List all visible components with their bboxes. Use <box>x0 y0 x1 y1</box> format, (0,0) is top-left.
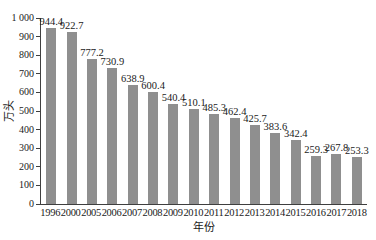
bar-slot: 462.4 <box>224 18 244 204</box>
y-tick-label: 200 <box>19 162 34 172</box>
x-tick-label: 2013 <box>244 207 264 218</box>
bar-slot: 638.9 <box>123 18 143 204</box>
bar-value-label: 600.4 <box>141 81 165 91</box>
x-tick-label: 2017 <box>326 207 346 218</box>
bar-value-label: 253.3 <box>345 146 369 156</box>
bar-slot: 922.7 <box>61 18 81 204</box>
bar-2012 <box>230 118 240 204</box>
y-tick-label: 600 <box>19 87 34 97</box>
bar-2014 <box>270 133 280 204</box>
bar-slot: 485.3 <box>204 18 224 204</box>
y-tick-mark <box>36 129 40 130</box>
bar-1996 <box>46 28 56 204</box>
bar-slot: 425.7 <box>245 18 265 204</box>
y-tick-label: 1 000 <box>12 13 35 23</box>
x-tick-label: 2010 <box>183 207 203 218</box>
x-tick-label: 2005 <box>81 207 101 218</box>
bar-slot: 259.3 <box>306 18 326 204</box>
bar-slot: 730.9 <box>102 18 122 204</box>
y-tick-label: 0 <box>29 199 34 209</box>
bar-value-label: 922.7 <box>60 21 84 31</box>
x-tick-label: 2000 <box>60 207 80 218</box>
y-tick-mark <box>36 73 40 74</box>
y-tick-label: 700 <box>19 69 34 79</box>
bar-2011 <box>209 114 219 204</box>
y-tick-mark <box>36 185 40 186</box>
bar-slot: 267.8 <box>326 18 346 204</box>
bar-value-label: 730.9 <box>101 57 125 67</box>
bar-2010 <box>189 109 199 204</box>
x-tick-label: 2016 <box>306 207 326 218</box>
bar-slot: 342.4 <box>286 18 306 204</box>
x-tick-label: 2006 <box>101 207 121 218</box>
x-tick-label: 2009 <box>163 207 183 218</box>
bar-2006 <box>107 68 117 204</box>
x-tick-label: 2015 <box>285 207 305 218</box>
x-tick-label: 2008 <box>142 207 162 218</box>
x-axis-title: 年份 <box>40 221 367 234</box>
bar-2016 <box>311 156 321 204</box>
x-tick-label: 2011 <box>204 207 224 218</box>
x-tick-label: 2007 <box>122 207 142 218</box>
bar-slot: 253.3 <box>347 18 367 204</box>
y-tick-label: 900 <box>19 32 34 42</box>
bar-2007 <box>128 85 138 204</box>
y-tick-label: 800 <box>19 50 34 60</box>
bar-slot: 383.6 <box>265 18 285 204</box>
bar-slot: 540.4 <box>163 18 183 204</box>
x-tick-label: 1996 <box>40 207 60 218</box>
bar-value-label: 342.4 <box>284 129 308 139</box>
x-axis-labels: 1996200020052006200720082009201020112012… <box>40 207 367 218</box>
bar-2017 <box>331 154 341 204</box>
bar-2009 <box>168 104 178 205</box>
x-tick-label: 2014 <box>265 207 285 218</box>
y-tick-mark <box>36 36 40 37</box>
x-tick-label: 2018 <box>347 207 367 218</box>
y-tick-mark <box>36 166 40 167</box>
bar-slot: 944.4 <box>41 18 61 204</box>
y-tick-mark <box>36 92 40 93</box>
y-tick-label: 500 <box>19 106 34 116</box>
y-tick-label: 300 <box>19 143 34 153</box>
y-tick-label: 400 <box>19 125 34 135</box>
bar-slot: 777.2 <box>82 18 102 204</box>
bar-chart: 万头 944.4922.7777.2730.9638.9600.4540.451… <box>0 0 376 240</box>
bar-2008 <box>148 92 158 204</box>
x-tick-label: 2012 <box>224 207 244 218</box>
bar-2000 <box>67 32 77 204</box>
y-tick-mark <box>36 204 40 205</box>
bar-2005 <box>87 59 97 204</box>
bar-2015 <box>291 140 301 204</box>
bar-2018 <box>352 157 362 204</box>
bar-slot: 510.1 <box>184 18 204 204</box>
y-tick-mark <box>36 148 40 149</box>
bar-slot: 600.4 <box>143 18 163 204</box>
y-tick-mark <box>36 111 40 112</box>
y-axis-title: 万头 <box>2 95 16 127</box>
plot-area: 944.4922.7777.2730.9638.9600.4540.4510.1… <box>40 18 367 205</box>
y-tick-label: 100 <box>19 180 34 190</box>
y-tick-mark <box>36 18 40 19</box>
bar-2013 <box>250 125 260 204</box>
y-tick-mark <box>36 55 40 56</box>
bars-container: 944.4922.7777.2730.9638.9600.4540.4510.1… <box>41 18 367 204</box>
